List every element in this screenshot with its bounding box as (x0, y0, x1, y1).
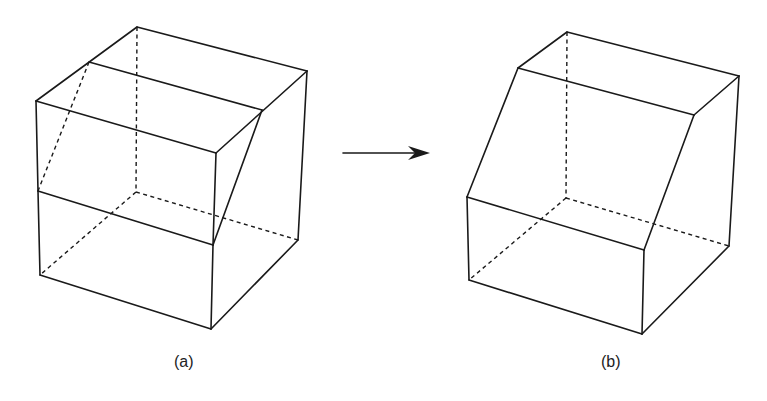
visible-edge (89, 62, 262, 110)
visible-edge (642, 246, 729, 334)
visible-edge (469, 280, 642, 334)
visible-edge (642, 250, 644, 334)
visible-edge (38, 191, 213, 245)
visible-edge (467, 197, 469, 280)
visible-edge (40, 275, 211, 329)
hidden-edge (566, 32, 567, 198)
figure-b-label: (b) (601, 353, 621, 371)
visible-edge (729, 76, 739, 246)
figure-a-label: (a) (174, 353, 194, 371)
figure-a-cube-with-cut (36, 27, 307, 329)
visible-edge (694, 76, 739, 115)
visible-edge (213, 110, 262, 245)
visible-edge (567, 32, 739, 76)
visible-edge (36, 27, 137, 101)
visible-edge (36, 101, 38, 191)
visible-edge (644, 115, 694, 250)
visible-edge (213, 153, 216, 245)
hidden-edge (469, 198, 566, 280)
hidden-edge (136, 27, 137, 192)
diagram-canvas (0, 0, 767, 401)
hidden-edge (40, 192, 136, 275)
visible-edge (518, 68, 694, 115)
visible-edge (298, 71, 307, 240)
transform-arrow-icon (343, 146, 430, 160)
visible-edge (137, 27, 307, 71)
visible-edge (211, 245, 213, 329)
visible-edge (467, 197, 644, 250)
visible-edge (467, 68, 518, 197)
figure-b-resulting-solid (467, 32, 739, 334)
visible-edge (211, 240, 298, 329)
visible-edge (38, 191, 40, 275)
visible-edge (518, 32, 567, 68)
